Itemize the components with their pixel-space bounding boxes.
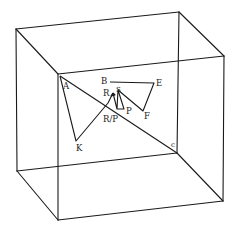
label-f: F xyxy=(144,111,150,121)
cube-front-face xyxy=(58,56,224,220)
cube-diagram: A B E R S P R/P F K c xyxy=(0,0,241,232)
label-r-p: R/P xyxy=(103,114,118,124)
label-c: c xyxy=(171,141,175,149)
label-k: K xyxy=(76,143,83,153)
label-r: R xyxy=(103,88,110,98)
cube-back-face xyxy=(16,12,179,171)
label-p: P xyxy=(126,106,132,116)
label-s: S xyxy=(116,86,121,94)
label-e: E xyxy=(156,78,162,88)
label-a: A xyxy=(62,81,70,91)
label-b: B xyxy=(101,76,107,86)
